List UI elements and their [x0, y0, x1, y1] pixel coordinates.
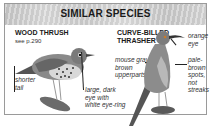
note-line: tail: [15, 84, 35, 92]
panel-title: SIMILAR SPECIES: [5, 8, 206, 19]
note-line: eye: [188, 40, 208, 48]
note-line: brown: [188, 64, 209, 72]
note-line: streaks: [188, 86, 209, 94]
note-line: eye with: [85, 94, 125, 102]
leader-line: [14, 66, 15, 92]
note-pale-brown-spots: pale- brown spots, not streaks: [188, 56, 209, 94]
note-line: large, dark: [85, 86, 125, 94]
note-line: orange: [188, 32, 208, 40]
note-line: white eye-ring: [85, 101, 125, 109]
curve-billed-thrasher-illustration: [127, 26, 187, 126]
note-line: spots,: [188, 71, 209, 79]
note-orange-eye: orange eye: [188, 32, 208, 47]
note-shorter-tail: shorter tail: [15, 76, 35, 91]
leader-line: [175, 64, 187, 65]
note-line: shorter: [15, 76, 35, 84]
similar-species-panel: SIMILAR SPECIES WOOD THRUSH see p.290 sh…: [4, 3, 207, 115]
note-line: not: [188, 79, 209, 87]
note-eye-ring: large, dark eye with white eye-ring: [85, 86, 125, 109]
panel-header: SIMILAR SPECIES: [5, 4, 206, 25]
note-line: pale-: [188, 56, 209, 64]
